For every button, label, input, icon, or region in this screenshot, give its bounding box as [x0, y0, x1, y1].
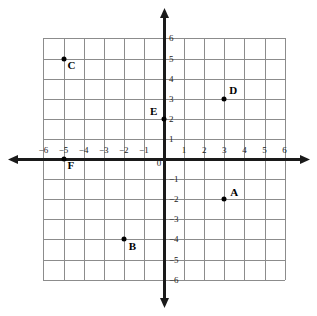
- y-tick-label: −6: [169, 275, 179, 284]
- x-tick-label: 4: [242, 146, 247, 155]
- plot-point-b: [121, 237, 126, 242]
- y-tick-label: 1: [169, 134, 174, 143]
- x-tick-label: −3: [99, 146, 109, 155]
- point-label-b: B: [129, 241, 136, 252]
- plot-point-d: [222, 96, 227, 101]
- y-axis-arrow-up: [160, 8, 169, 18]
- y-tick-label: 2: [169, 114, 174, 123]
- point-label-a: A: [230, 187, 238, 198]
- x-tick-label: 5: [262, 146, 267, 155]
- x-axis-arrow-right: [300, 155, 310, 164]
- point-label-e: E: [150, 106, 157, 117]
- x-axis-arrow-left: [8, 155, 18, 164]
- x-tick-label: −4: [79, 146, 89, 155]
- x-tick-label: 2: [202, 146, 207, 155]
- y-tick-label: −4: [169, 235, 179, 244]
- x-tick-label: −5: [59, 146, 69, 155]
- y-tick-label: 4: [169, 74, 174, 83]
- y-tick-label: 3: [169, 94, 174, 103]
- plot-point-f: [61, 157, 66, 162]
- x-tick-label: 6: [282, 146, 287, 155]
- y-tick-label: −5: [169, 255, 179, 264]
- y-tick-label: −2: [169, 195, 179, 204]
- plot-point-c: [61, 56, 66, 61]
- coordinate-plane: −6−5−4−3−2−10123456654321−1−2−3−4−5−6 AB…: [0, 0, 317, 316]
- y-tick-label: −1: [169, 175, 179, 184]
- x-tick-label: −2: [119, 146, 129, 155]
- y-tick-label: 6: [169, 34, 174, 43]
- y-axis-arrow-down: [160, 298, 169, 308]
- point-label-c: C: [68, 60, 76, 71]
- x-tick-label: 0: [157, 159, 162, 168]
- point-label-d: D: [229, 85, 237, 96]
- y-tick-label: −3: [169, 215, 179, 224]
- x-tick-label: −6: [39, 146, 49, 155]
- point-label-f: F: [68, 160, 75, 171]
- plot-point-a: [222, 197, 227, 202]
- y-tick-label: 5: [169, 54, 174, 63]
- plot-point-e: [162, 116, 167, 121]
- x-tick-label: −1: [139, 146, 149, 155]
- x-tick-label: 1: [182, 146, 187, 155]
- x-tick-label: 3: [222, 146, 227, 155]
